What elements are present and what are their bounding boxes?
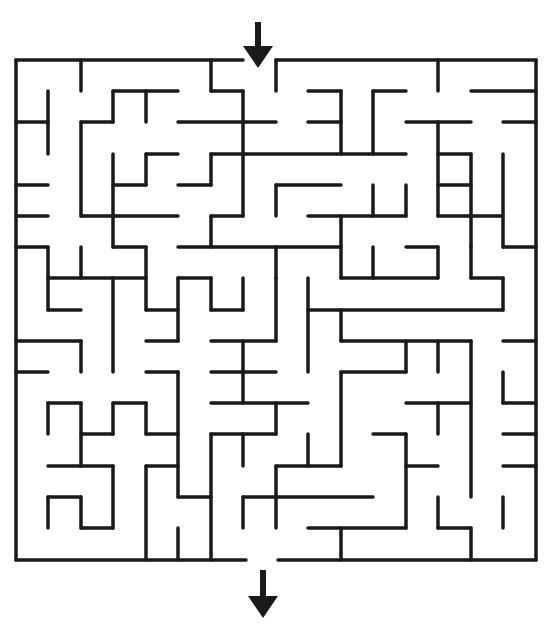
exit-arrow [248, 570, 278, 618]
maze-walls [16, 60, 536, 560]
entrance-arrow [243, 22, 273, 68]
arrow-down-icon [248, 596, 278, 618]
arrow-down-icon [243, 46, 273, 68]
maze-board [0, 0, 551, 632]
maze-puzzle: Maze [0, 0, 551, 632]
